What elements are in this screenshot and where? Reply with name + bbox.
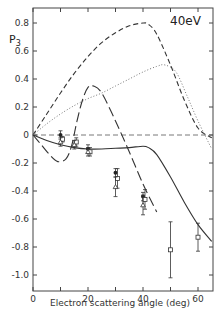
y-axis-title: P3: [9, 33, 21, 48]
axis-ticks: 0.80.60.40.20-0.2-0.4-0.6-0.8-1.00204060: [11, 8, 213, 304]
x-tick-label: 0: [30, 294, 36, 304]
x-axis-title: Electron scattering angle (deg): [50, 298, 190, 308]
x-tick-label: 60: [192, 294, 204, 304]
theory-curves: [33, 23, 213, 242]
y-tick-label: -0.6: [11, 214, 29, 224]
y-tick-label: -0.8: [11, 242, 29, 252]
theory-solid-curve: [33, 135, 212, 241]
y-tick-label: 0.2: [15, 102, 29, 112]
theory-short-dash-curve: [33, 23, 212, 138]
plot-frame: [33, 8, 213, 291]
open-square-marker: [169, 248, 173, 252]
y-tick-label: 0: [23, 130, 29, 140]
y-tick-label: -1.0: [11, 270, 29, 280]
open-square-marker: [196, 235, 200, 239]
y-tick-label: 0.8: [15, 18, 30, 28]
energy-label: 40eV: [170, 14, 202, 28]
filled-circle-marker: [114, 171, 118, 175]
y-tick-label: 0.4: [15, 74, 30, 84]
experimental-points: [58, 131, 200, 278]
y-tick-label: -0.2: [11, 158, 29, 168]
open-square-marker: [143, 197, 147, 201]
p3-vs-angle-chart: 0.80.60.40.20-0.2-0.4-0.6-0.8-1.00204060…: [0, 0, 221, 328]
y-tick-label: -0.4: [11, 186, 29, 196]
